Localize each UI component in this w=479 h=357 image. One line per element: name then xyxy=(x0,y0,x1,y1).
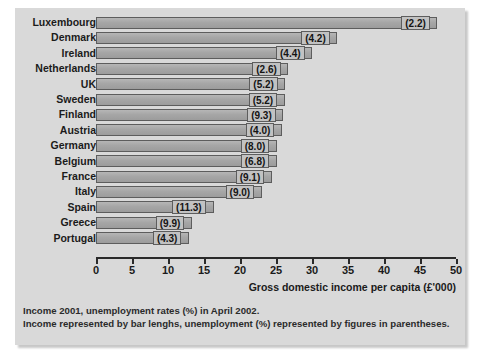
chart-row: Finland(9.3) xyxy=(15,107,465,122)
chart-row: Austria(4.0) xyxy=(15,123,465,138)
bar-value-finland: (9.3) xyxy=(247,108,276,122)
category-label-italy: Italy xyxy=(0,184,96,199)
category-label-denmark: Denmark xyxy=(0,30,96,45)
caption-line-1: Income 2001, unemployment rates (%) in A… xyxy=(23,304,457,317)
category-label-austria: Austria xyxy=(0,123,96,138)
chart-figure: Luxembourg(2.2)Denmark(4.2)Ireland(4.4)N… xyxy=(15,8,465,345)
x-tick-label-50: 50 xyxy=(436,264,476,276)
category-label-finland: Finland xyxy=(0,107,96,122)
bar-value-ireland: (4.4) xyxy=(276,46,305,60)
chart-row: Portugal(4.3) xyxy=(15,231,465,246)
x-axis-title: Gross domestic income per capita (£'000) xyxy=(15,281,456,293)
x-tick-label-45: 45 xyxy=(400,264,440,276)
x-tick-label-15: 15 xyxy=(184,264,224,276)
category-label-sweden: Sweden xyxy=(0,92,96,107)
chart-row: Denmark(4.2) xyxy=(15,30,465,45)
bar-luxembourg xyxy=(96,17,437,29)
x-tick-label-10: 10 xyxy=(148,264,188,276)
bar-value-spain: (11.3) xyxy=(172,200,206,214)
x-tick-label-35: 35 xyxy=(328,264,368,276)
chart-row: Luxembourg(2.2) xyxy=(15,15,465,30)
x-tick-label-30: 30 xyxy=(292,264,332,276)
chart-row: Belgium(6.8) xyxy=(15,154,465,169)
caption-line-2: Income represented by bar lenghs, unempl… xyxy=(23,317,457,330)
x-tick-label-25: 25 xyxy=(256,264,296,276)
bar-value-luxembourg: (2.2) xyxy=(401,16,430,30)
chart-row: Italy(9.0) xyxy=(15,184,465,199)
chart-row: Greece(9.9) xyxy=(15,215,465,230)
category-label-uk: UK xyxy=(0,77,96,92)
chart-row: Netherlands(2.6) xyxy=(15,61,465,76)
chart-row: Spain(11.3) xyxy=(15,200,465,215)
plot-area: Luxembourg(2.2)Denmark(4.2)Ireland(4.4)N… xyxy=(15,8,465,270)
category-label-netherlands: Netherlands xyxy=(0,61,96,76)
chart-caption: Income 2001, unemployment rates (%) in A… xyxy=(23,304,457,330)
bar-value-austria: (4.0) xyxy=(246,123,275,137)
bar-value-sweden: (5.2) xyxy=(249,93,278,107)
category-label-portugal: Portugal xyxy=(0,231,96,246)
category-label-germany: Germany xyxy=(0,138,96,153)
bar-value-netherlands: (2.6) xyxy=(252,62,281,76)
category-label-belgium: Belgium xyxy=(0,154,96,169)
bar-value-belgium: (6.8) xyxy=(241,154,270,168)
x-tick-label-0: 0 xyxy=(76,264,116,276)
category-label-greece: Greece xyxy=(0,215,96,230)
chart-row: France(9.1) xyxy=(15,169,465,184)
x-tick-label-5: 5 xyxy=(112,264,152,276)
chart-row: Ireland(4.4) xyxy=(15,46,465,61)
chart-row: UK(5.2) xyxy=(15,77,465,92)
bar-value-france: (9.1) xyxy=(236,170,265,184)
bar-value-uk: (5.2) xyxy=(249,77,278,91)
bar-value-greece: (9.9) xyxy=(156,216,185,230)
chart-row: Germany(8.0) xyxy=(15,138,465,153)
x-tick-label-40: 40 xyxy=(364,264,404,276)
chart-row: Sweden(5.2) xyxy=(15,92,465,107)
category-label-spain: Spain xyxy=(0,200,96,215)
bar-value-germany: (8.0) xyxy=(241,139,270,153)
bar-value-portugal: (4.3) xyxy=(153,231,182,245)
category-label-luxembourg: Luxembourg xyxy=(0,15,96,30)
x-tick-label-20: 20 xyxy=(220,264,260,276)
bar-value-denmark: (4.2) xyxy=(301,31,330,45)
category-label-ireland: Ireland xyxy=(0,46,96,61)
category-label-france: France xyxy=(0,169,96,184)
bar-value-italy: (9.0) xyxy=(226,185,255,199)
